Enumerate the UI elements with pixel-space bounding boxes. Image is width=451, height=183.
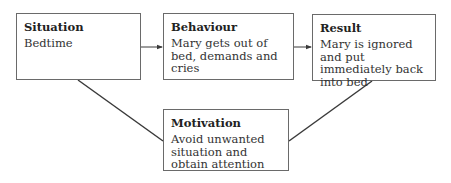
result-box: Result Mary is ignored and put immediate… (312, 14, 436, 81)
behaviour-box: Behaviour Mary gets out of bed, demands … (163, 13, 294, 80)
behaviour-text: Mary gets out of bed, demands and cries (171, 37, 286, 75)
line-situation-to-motivation (78, 80, 163, 141)
line-result-to-motivation (289, 81, 372, 141)
behaviour-title: Behaviour (171, 20, 286, 34)
motivation-text: Avoid unwanted situation and obtain atte… (171, 133, 281, 171)
situation-text: Bedtime (24, 37, 133, 50)
result-text: Mary is ignored and put immediately back… (320, 38, 428, 88)
situation-box: Situation Bedtime (16, 13, 141, 80)
motivation-box: Motivation Avoid unwanted situation and … (163, 109, 289, 171)
motivation-title: Motivation (171, 116, 281, 130)
result-title: Result (320, 21, 428, 35)
situation-title: Situation (24, 20, 133, 34)
